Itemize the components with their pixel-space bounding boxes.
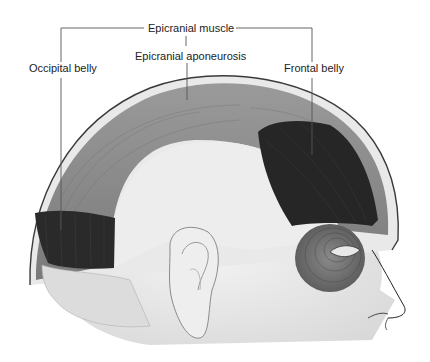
label-frontal-belly: Frontal belly [282, 62, 346, 74]
label-epicranial-aponeurosis: Epicranial aponeurosis [133, 50, 248, 62]
anatomy-figure: Epicranial muscle Epicranial aponeurosis… [0, 0, 430, 362]
label-occipital-belly: Occipital belly [27, 62, 99, 74]
label-epicranial-muscle: Epicranial muscle [146, 22, 236, 34]
